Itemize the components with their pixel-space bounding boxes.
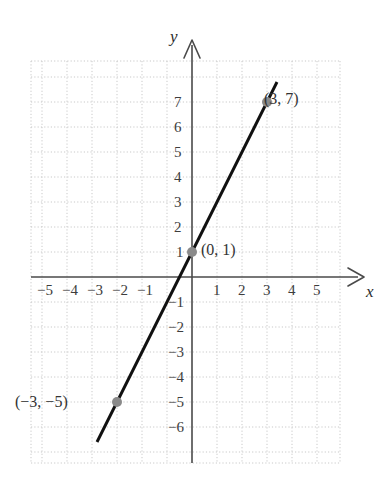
y-tick-neg5: −5	[168, 395, 184, 410]
y-tick-1: 1	[176, 245, 184, 260]
y-tick-neg1: −1	[168, 295, 184, 310]
x-axis-label: x	[366, 283, 374, 300]
line-series	[97, 82, 277, 442]
x-tick-4: 4	[288, 283, 296, 298]
point-label-3-7: (3, 7)	[264, 91, 299, 107]
y-axis-label: y	[170, 28, 178, 45]
data-point-neg3-neg5	[112, 397, 122, 407]
x-tick-neg1: −1	[137, 283, 153, 298]
graph-canvas	[0, 0, 388, 493]
y-tick-neg4: −4	[168, 370, 184, 385]
x-tick-neg5: −5	[37, 283, 53, 298]
y-tick-5: 5	[174, 145, 182, 160]
x-tick-neg3: −3	[87, 283, 103, 298]
y-tick-3: 3	[174, 195, 182, 210]
y-tick-neg3: −3	[168, 345, 184, 360]
point-label-neg3-neg5: (−3, −5)	[15, 394, 68, 410]
data-point-0-1	[187, 247, 197, 257]
x-tick-5: 5	[313, 283, 321, 298]
point-label-0-1: (0, 1)	[201, 242, 236, 258]
x-tick-neg2: −2	[112, 283, 128, 298]
y-tick-neg2: −2	[168, 320, 184, 335]
y-tick-4: 4	[174, 170, 182, 185]
y-tick-2: 2	[174, 220, 182, 235]
y-tick-7: 7	[174, 95, 182, 110]
x-tick-2: 2	[238, 283, 246, 298]
coordinate-plane-graph: y x 7 6 5 4 3 2 1 −1 −2 −3 −4 −5 −6 −5 −…	[0, 0, 388, 493]
y-tick-6: 6	[174, 120, 182, 135]
linear-function-line	[97, 82, 277, 442]
y-tick-neg6: −6	[168, 420, 184, 435]
x-tick-neg4: −4	[62, 283, 78, 298]
x-tick-3: 3	[263, 283, 271, 298]
x-tick-1: 1	[213, 283, 221, 298]
